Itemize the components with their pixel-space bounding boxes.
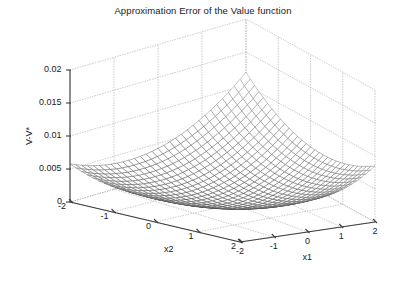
figure-canvas: Approximation Error of the Value functio… [0,0,406,291]
z-tick-label-1: 0.005 [39,163,62,173]
z-tick-label-3: 0.015 [39,97,62,107]
y-tick-label-2: 0 [146,221,151,231]
y-axis-label: x2 [164,244,174,254]
x-tick-label-1: -1 [270,241,278,251]
x-tick-label-2: 0 [305,236,310,246]
z-tick-label-4: 0.02 [44,64,62,74]
x-tick-label-4: 2 [373,226,378,236]
surface-plot [0,0,406,291]
x-tick-label-3: 1 [339,231,344,241]
y-tick-label-1: 1 [189,231,194,241]
z-axis-label: V-V* [24,127,34,145]
z-tick-label-2: 0.01 [44,130,62,140]
y-tick-label-4: -2 [58,201,66,211]
x-axis-label: x1 [303,252,313,262]
x-tick-label-0: -2 [236,246,244,256]
y-tick-label-3: -1 [101,211,109,221]
